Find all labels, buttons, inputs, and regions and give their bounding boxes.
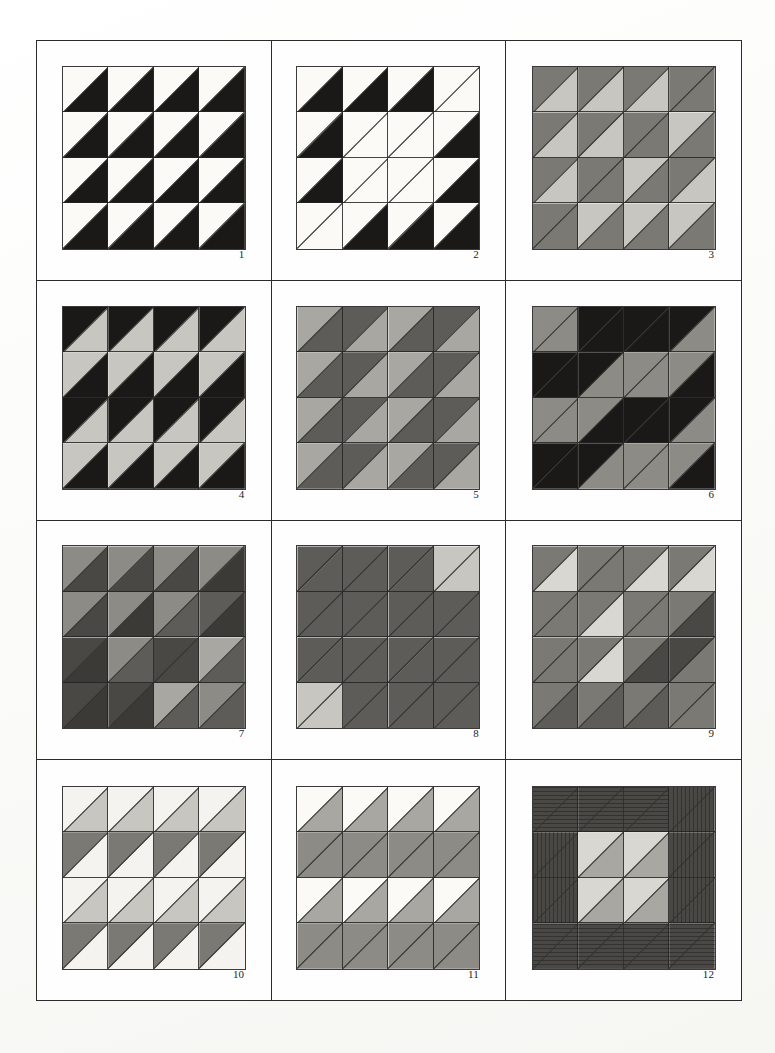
tile — [199, 307, 245, 353]
tile — [669, 546, 715, 592]
tile — [669, 637, 715, 683]
tile — [297, 592, 343, 638]
tile — [154, 398, 200, 444]
tile — [63, 203, 109, 249]
tile — [533, 67, 579, 113]
motif-number-label: 8 — [473, 727, 479, 739]
motif-wrapper: 3 — [521, 53, 726, 268]
tile — [624, 637, 670, 683]
tile — [108, 832, 154, 878]
tile — [434, 352, 480, 398]
tile — [343, 398, 389, 444]
tile — [63, 112, 109, 158]
tile — [388, 203, 434, 249]
tile — [624, 203, 670, 249]
tile — [533, 592, 579, 638]
tile — [343, 203, 389, 249]
tile — [108, 923, 154, 969]
tile — [154, 546, 200, 592]
tile — [63, 592, 109, 638]
tile — [578, 352, 624, 398]
tile — [154, 443, 200, 489]
tile — [624, 832, 670, 878]
tile — [199, 352, 245, 398]
tile — [343, 307, 389, 353]
tile — [388, 878, 434, 924]
tile — [434, 878, 480, 924]
tile — [154, 158, 200, 204]
tile — [154, 683, 200, 729]
tile — [388, 158, 434, 204]
tile — [578, 832, 624, 878]
motif-wrapper: 9 — [521, 532, 726, 747]
tile — [199, 878, 245, 924]
pattern-cell-7: 7 — [37, 521, 272, 761]
tile — [434, 546, 480, 592]
tile — [343, 832, 389, 878]
tile — [669, 787, 715, 833]
motif-number-label: 4 — [239, 488, 245, 500]
motif-wrapper: 2 — [286, 53, 491, 268]
motif-number-label: 2 — [473, 248, 479, 260]
motif-wrapper: 4 — [51, 293, 256, 508]
tile — [63, 398, 109, 444]
tile — [388, 546, 434, 592]
tile — [624, 158, 670, 204]
motif-wrapper: 5 — [286, 293, 491, 508]
tile — [624, 352, 670, 398]
tile — [434, 683, 480, 729]
tile — [199, 637, 245, 683]
tile — [63, 878, 109, 924]
tile — [343, 787, 389, 833]
motif-5 — [297, 307, 479, 489]
tile — [108, 67, 154, 113]
tile — [108, 398, 154, 444]
pattern-cell-8: 8 — [272, 521, 507, 761]
tile — [669, 352, 715, 398]
tile — [343, 112, 389, 158]
tile — [343, 443, 389, 489]
tile — [63, 637, 109, 683]
tile — [434, 158, 480, 204]
motif-number-label: 11 — [468, 968, 479, 980]
tile — [434, 787, 480, 833]
tile — [578, 592, 624, 638]
tile — [154, 203, 200, 249]
tile — [669, 443, 715, 489]
tile — [624, 592, 670, 638]
tile — [108, 443, 154, 489]
tile — [578, 923, 624, 969]
tile — [297, 203, 343, 249]
tile — [578, 787, 624, 833]
motif-4 — [63, 307, 245, 489]
tile — [533, 923, 579, 969]
motif-number-label: 10 — [233, 968, 244, 980]
tile — [199, 158, 245, 204]
pattern-cell-5: 5 — [272, 281, 507, 521]
tile — [533, 878, 579, 924]
tile — [154, 637, 200, 683]
pattern-cell-10: 10 — [37, 760, 272, 1000]
tile — [199, 67, 245, 113]
tile — [108, 592, 154, 638]
tile — [533, 352, 579, 398]
tile — [297, 352, 343, 398]
tile — [297, 637, 343, 683]
motif-number-label: 9 — [708, 727, 714, 739]
tile — [343, 637, 389, 683]
tile — [63, 307, 109, 353]
tile — [154, 832, 200, 878]
tile — [533, 398, 579, 444]
tile — [199, 592, 245, 638]
tile — [199, 787, 245, 833]
tile — [533, 787, 579, 833]
tile — [297, 546, 343, 592]
tile — [63, 158, 109, 204]
tile — [669, 592, 715, 638]
tile — [669, 832, 715, 878]
tile — [388, 637, 434, 683]
tile — [624, 787, 670, 833]
tile — [343, 158, 389, 204]
tile — [533, 203, 579, 249]
tile — [108, 307, 154, 353]
